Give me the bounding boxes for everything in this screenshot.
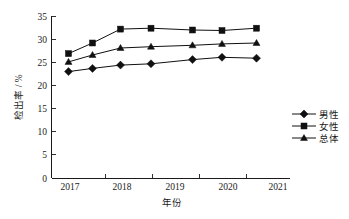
- square-marker: [66, 51, 72, 57]
- legend-label-male: 男性: [319, 109, 339, 120]
- diamond-marker: [89, 64, 97, 72]
- x-tick-label-2020: 2020: [219, 182, 238, 192]
- y-tick-label-10: 10: [38, 127, 48, 137]
- y-tick-label-35: 35: [38, 12, 48, 22]
- square-marker: [118, 26, 124, 32]
- square-marker: [148, 25, 154, 31]
- square-marker: [254, 25, 260, 31]
- x-axis-title: 年份: [162, 197, 182, 208]
- series-total-line: [69, 43, 257, 62]
- y-tick-label-5: 5: [42, 150, 47, 160]
- diamond-marker: [147, 60, 155, 68]
- diamond-marker: [300, 110, 308, 118]
- y-tick-label-15: 15: [38, 104, 48, 114]
- legend-label-total: 总体: [319, 133, 339, 144]
- x-tick-label-2021: 2021: [269, 182, 288, 192]
- y-tick-label-30: 30: [38, 35, 48, 45]
- square-marker: [301, 123, 307, 129]
- y-tick-label-0: 0: [42, 174, 47, 184]
- y-tick-label-20: 20: [38, 81, 48, 91]
- legend-label-female: 女性: [319, 121, 339, 132]
- x-axis-tick-labels: 2017 2018 2019 2020 2021: [61, 182, 288, 192]
- series-female-line: [69, 28, 257, 53]
- y-axis-tick-labels: 0 5 10 15 20 25 30 35: [38, 12, 48, 184]
- diamond-marker: [253, 54, 261, 62]
- x-tick-label-2017: 2017: [61, 182, 80, 192]
- series-male-line: [69, 57, 257, 71]
- square-marker: [219, 28, 225, 34]
- diamond-marker: [189, 56, 197, 64]
- y-axis-title: 检出率 / %: [13, 74, 24, 119]
- x-tick-label-2018: 2018: [113, 182, 132, 192]
- x-axis-ticks: [106, 174, 247, 179]
- chart-legend: 男性 女性 总体: [292, 109, 339, 144]
- line-chart: 0 5 10 15 20 25 30 35 2017 2018 2019 202…: [0, 0, 349, 219]
- y-axis-ticks: [52, 16, 56, 178]
- diamond-marker: [218, 53, 226, 61]
- diamond-marker: [65, 68, 73, 76]
- legend-item-female[interactable]: 女性: [292, 121, 339, 132]
- series-female: [66, 25, 260, 56]
- square-marker: [190, 27, 196, 33]
- y-tick-label-25: 25: [38, 58, 48, 68]
- legend-item-total[interactable]: 总体: [292, 133, 339, 144]
- legend-item-male[interactable]: 男性: [292, 109, 339, 120]
- triangle-marker: [253, 40, 260, 46]
- x-tick-label-2019: 2019: [166, 182, 185, 192]
- diamond-marker: [117, 61, 125, 69]
- square-marker: [90, 40, 96, 46]
- chart-figure: 0 5 10 15 20 25 30 35 2017 2018 2019 202…: [0, 0, 349, 219]
